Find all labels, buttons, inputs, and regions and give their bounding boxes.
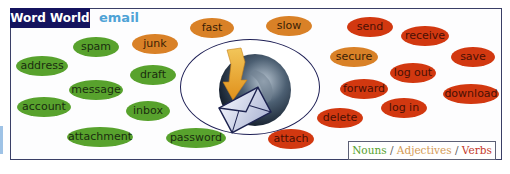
word-noun-inbox: inbox — [126, 101, 170, 121]
word-noun-message: message — [69, 80, 123, 100]
word-verb-log-in: log in — [381, 98, 427, 118]
legend: Nouns / Adjectives / Verbs — [348, 141, 496, 160]
word-noun-attachment: attachment — [67, 127, 133, 147]
legend-nouns: Nouns — [352, 144, 386, 156]
word-adj-secure: secure — [330, 47, 378, 67]
legend-adjectives: Adjectives — [397, 144, 452, 156]
panel-title: Word World — [10, 8, 90, 28]
word-verb-download: download — [443, 84, 499, 104]
word-adj-junk: junk — [132, 34, 178, 54]
word-noun-spam: spam — [73, 37, 119, 57]
word-noun-draft: draft — [130, 65, 176, 85]
word-verb-save: save — [451, 47, 495, 67]
word-adj-slow: slow — [266, 16, 312, 36]
globe-email-icon — [205, 44, 297, 136]
word-verb-receive: receive — [401, 26, 449, 46]
topic-label: email — [99, 8, 139, 28]
legend-separator: / — [390, 144, 394, 156]
legend-separator: / — [455, 144, 459, 156]
word-adj-fast: fast — [190, 18, 234, 38]
word-noun-address: address — [16, 56, 68, 76]
word-verb-delete: delete — [317, 108, 363, 128]
legend-verbs: Verbs — [462, 144, 492, 156]
word-verb-forward: forward — [340, 79, 388, 99]
word-verb-send: send — [347, 17, 393, 37]
word-verb-log-out: log out — [390, 63, 436, 83]
side-tab-marker — [0, 126, 3, 154]
word-noun-account: account — [17, 97, 71, 117]
